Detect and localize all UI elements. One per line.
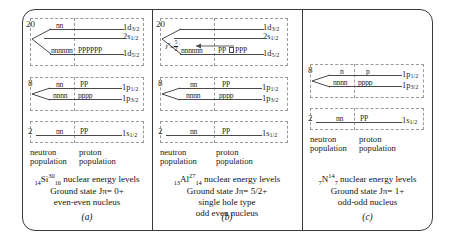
orbital-label-1p12-a: 1p1/2 bbox=[122, 84, 138, 92]
orbital-label-1d52-b: 1d5/2 bbox=[263, 50, 279, 58]
orbital-label-1p12-c: 1p1/2 bbox=[402, 71, 418, 79]
orbital-label-1d52-a: 1d5/2 bbox=[123, 50, 139, 58]
ground-state-annotation-b: Jπ=52+ bbox=[165, 40, 181, 52]
magic-number-2-b: 2 bbox=[158, 127, 163, 136]
energy-levels-text-b: nuclear energy levels bbox=[204, 174, 280, 184]
level-line-2s12-a bbox=[44, 38, 124, 39]
orbital-label-1s12-b: 1s1/2 bbox=[262, 130, 277, 138]
neutron-population-label-a: neutronpopulation bbox=[30, 148, 67, 167]
hole-type-b: single hole type bbox=[152, 197, 302, 208]
isotope-label-a: 14Si3016 nuclear energy levels bbox=[22, 172, 152, 186]
column-separator-20-a bbox=[74, 18, 75, 66]
column-separator-8-a bbox=[74, 77, 75, 111]
orbital-label-1s12-a: 1s1/2 bbox=[122, 130, 137, 138]
panel-letter-b: (b) bbox=[152, 212, 302, 222]
panel-letter-c: (c) bbox=[302, 212, 433, 222]
neutron-occupancy-1p12-b: nn bbox=[190, 81, 197, 89]
neutron-occupancy-1p12-c: n bbox=[340, 68, 344, 76]
shell-model-figure: 20 1d3/2 nn 2s1/2 1d5/2 nnnnnn PPPPPP 8 … bbox=[0, 0, 459, 245]
shell-bracket-8-c bbox=[312, 73, 332, 91]
neutron-occupancy-1s12-a: nn bbox=[56, 128, 63, 136]
isotope-label-b: 13Al2714 nuclear energy levels bbox=[152, 172, 302, 186]
proton-population-label-c: protonpopulation bbox=[359, 135, 396, 154]
level-line-1s12-c bbox=[316, 122, 402, 123]
ground-state-a: Ground state Jπ= 0+ bbox=[22, 186, 152, 197]
column-separator-8-b bbox=[214, 77, 215, 111]
panel-b: 20 1d3/2 2s1/2 Jπ=52+ 1d5/2 nnnnnn PP PP… bbox=[152, 9, 302, 231]
nucleus-type-c: odd-odd nucleus bbox=[302, 197, 433, 208]
proton-occupancy-1p32-b: pppp bbox=[219, 92, 233, 100]
proton-occupancy-1s12-a: PP bbox=[80, 128, 88, 136]
proton-occupancy-1p12-a: PP bbox=[80, 81, 88, 89]
neutron-population-label-b: neutronpopulation bbox=[160, 148, 197, 167]
orbital-label-1p32-a: 1p3/2 bbox=[122, 95, 138, 103]
shell-bracket-8-b bbox=[162, 86, 182, 104]
level-line-1s12-a bbox=[36, 135, 122, 136]
orbital-label-2s12-a: 2s1/2 bbox=[123, 33, 138, 41]
neutron-occupancy-1p32-c: nnnn bbox=[333, 79, 347, 87]
neutron-occupancy-1s12-b: nn bbox=[190, 128, 197, 136]
orbital-label-2s12-b: 2s1/2 bbox=[263, 33, 278, 41]
proton-occupancy-1p32-c: pppp bbox=[358, 79, 372, 87]
orbital-label-1p32-c: 1p3/2 bbox=[402, 82, 418, 90]
proton-occupancy-1p12-c: p bbox=[366, 68, 370, 76]
neutron-occupancy-1d52-a: nnnnnn bbox=[51, 47, 73, 55]
panel-letter-a: (a) bbox=[22, 212, 152, 222]
column-separator-2-b bbox=[214, 121, 215, 143]
proton-occupancy-1s12-c: PP bbox=[360, 115, 368, 123]
isotope-label-c: 7N147 nuclear energy levels bbox=[302, 172, 433, 186]
energy-levels-text-c: nuclear energy levels bbox=[340, 174, 416, 184]
neutron-occupancy-1p32-a: nnnn bbox=[53, 92, 67, 100]
orbital-label-1p12-b: 1p1/2 bbox=[262, 84, 278, 92]
nucleus-type-a: even-even nucleus bbox=[22, 197, 152, 208]
ground-state-c: Ground state Jπ= 1+ bbox=[302, 186, 433, 197]
proton-population-label-b: protonpopulation bbox=[216, 148, 253, 167]
magic-number-2-c: 2 bbox=[308, 114, 313, 123]
proton-occupancy-1s12-b: PP bbox=[222, 128, 230, 136]
energy-levels-text-a: nuclear energy levels bbox=[63, 174, 139, 184]
neutron-population-label-c: neutronpopulation bbox=[310, 135, 347, 154]
proton-occupancy-post-hole-b: PPP bbox=[235, 47, 247, 55]
neutron-occupancy-1p12-a: nn bbox=[56, 81, 63, 89]
level-line-1d32-b bbox=[179, 29, 264, 30]
orbital-label-1p32-b: 1p3/2 bbox=[262, 95, 278, 103]
column-separator-8-c bbox=[354, 64, 355, 98]
ground-state-b: Ground state Jπ= 5/2+ bbox=[152, 186, 302, 197]
level-line-1s12-b bbox=[166, 135, 262, 136]
proton-occupancy-1p32-a: pppp bbox=[78, 92, 92, 100]
proton-occupancy-1p12-b: PP bbox=[222, 81, 230, 89]
proton-population-label-a: protonpopulation bbox=[79, 148, 116, 167]
level-line-2s12-b bbox=[174, 38, 264, 39]
proton-occupancy-1d52-a: PPPPPP bbox=[78, 47, 102, 55]
proton-hole-marker-b bbox=[229, 47, 234, 53]
neutron-occupancy-1p32-b: nnnn bbox=[186, 92, 200, 100]
panel-c: 8 1p1/2 n p 1p3/2 nnnn pppp 2 1s1/2 nn P… bbox=[302, 9, 433, 231]
neutron-occupancy-1d52-b: nnnnnn bbox=[181, 47, 203, 55]
column-separator-2-a bbox=[74, 121, 75, 143]
caption-c: 7N147 nuclear energy levels Ground state… bbox=[302, 172, 433, 208]
proton-occupancy-pre-hole-b: PP bbox=[218, 47, 226, 55]
shell-bracket-8-a bbox=[32, 86, 52, 104]
orbital-label-1s12-c: 1s1/2 bbox=[402, 117, 417, 125]
panel-a: 20 1d3/2 nn 2s1/2 1d5/2 nnnnnn PPPPPP 8 … bbox=[22, 9, 152, 231]
neutron-occupancy-1d32-a: nn bbox=[56, 22, 63, 30]
neutron-occupancy-1s12-c: nn bbox=[336, 115, 343, 123]
magic-number-2-a: 2 bbox=[28, 127, 33, 136]
caption-a: 14Si3016 nuclear energy levels Ground st… bbox=[22, 172, 152, 208]
column-separator-2-c bbox=[354, 108, 355, 130]
